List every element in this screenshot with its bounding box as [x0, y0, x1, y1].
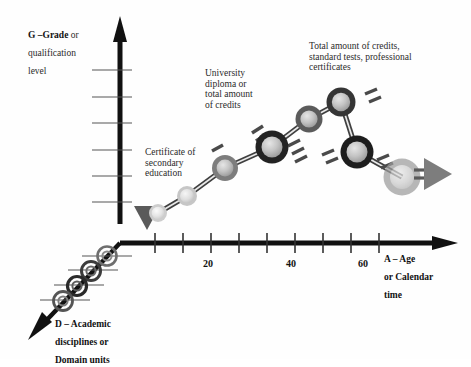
- g-axis-label-line2: qualification: [28, 48, 76, 58]
- annotation-university-line2: diploma or: [205, 79, 246, 89]
- g-axis-ticks: [92, 70, 132, 202]
- chain-node-6: [327, 88, 356, 117]
- chain-node-5: [296, 106, 323, 133]
- annotation-university-line3: total amount: [205, 89, 253, 99]
- annotation-certificate: Certificate of secondary education: [145, 147, 213, 179]
- g-axis-label: G –Grade or qualification level: [28, 24, 114, 78]
- a-axis-label-line1: A – Age: [384, 254, 415, 264]
- a-axis-label-line3: time: [384, 290, 402, 300]
- a-axis-tick-label-60: 60: [358, 258, 368, 269]
- a-axis-tick-label-20: 20: [203, 258, 213, 269]
- annotation-certificate-line3: education: [145, 168, 182, 178]
- a-axis-tick-label-40: 40: [286, 258, 296, 269]
- annotation-credits-line2: standard tests, professional: [309, 52, 412, 62]
- d-axis-label: D – Academic disciplines or Domain units: [55, 313, 175, 367]
- chain-node-7: [341, 136, 374, 169]
- annotation-university-line1: University: [205, 68, 245, 78]
- d-axis-label-line1: D – Academic: [55, 319, 111, 329]
- annotation-certificate-line2: secondary: [145, 158, 184, 168]
- chain-node-4: [256, 131, 289, 164]
- chain-node-2: [177, 186, 197, 206]
- g-axis-label-rest: or: [68, 30, 78, 40]
- annotation-university: University diploma or total amount of cr…: [205, 68, 279, 111]
- d-axis-label-line2: disciplines or: [55, 337, 109, 347]
- annotation-university-line4: of credits: [205, 100, 241, 110]
- a-axis-label-line2: or Calendar: [384, 272, 433, 282]
- annotation-credits-line1: Total amount of credits,: [309, 41, 400, 51]
- chain-node-3: [212, 155, 238, 181]
- chain-node-1: [149, 204, 167, 222]
- g-axis-label-line3: level: [28, 66, 46, 76]
- annotation-credits: Total amount of credits, standard tests,…: [309, 41, 445, 73]
- annotation-certificate-line1: Certificate of: [145, 147, 195, 157]
- annotation-credits-line3: certificates: [309, 62, 351, 72]
- a-axis-label: A – Age or Calendar time: [384, 248, 468, 302]
- g-axis-label-bold: G –Grade: [28, 30, 68, 40]
- d-axis-label-line3: Domain units: [55, 355, 110, 365]
